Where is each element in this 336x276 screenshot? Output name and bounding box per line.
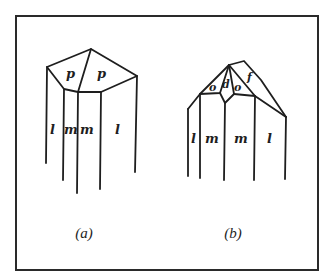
face-label-p-left: p <box>66 66 75 81</box>
crystal-a-edge-4 <box>100 92 101 189</box>
face-label-o-right: o <box>234 81 241 94</box>
face-label-l-left: l <box>50 122 55 137</box>
crystal-a-ridge <box>78 49 91 92</box>
crystal-a-edge-5 <box>135 76 137 172</box>
face-label-f: f <box>246 71 254 84</box>
figure-frame <box>16 16 318 270</box>
caption-b: (b) <box>224 225 242 242</box>
crystal-b-edge-5 <box>285 117 286 179</box>
face-label-m-left: m <box>64 122 78 137</box>
face-label-l-right-b: l <box>267 131 272 146</box>
crystal-b-edge-4 <box>254 96 255 180</box>
crystal-figure: p p l m m l (a) o d o f l m m l (b) <box>0 0 336 276</box>
face-label-p-right: p <box>97 66 106 81</box>
face-label-d: d <box>222 78 230 91</box>
crystal-a-cap-outline <box>47 49 137 92</box>
face-label-l-left-b: l <box>191 131 196 146</box>
face-label-m-right-b: m <box>234 131 248 146</box>
face-label-l-right: l <box>115 122 120 137</box>
face-label-o-left: o <box>209 81 216 94</box>
face-label-m-left-b: m <box>205 131 219 146</box>
crystal-a-edge-1 <box>46 67 47 163</box>
caption-a: (a) <box>75 225 93 242</box>
crystal-a: p p l m m l (a) <box>46 49 137 242</box>
face-label-m-right: m <box>80 122 94 137</box>
crystal-b-edge-3 <box>224 103 225 180</box>
crystal-b: o d o f l m m l (b) <box>188 61 286 242</box>
crystal-a-edge-3 <box>77 92 78 193</box>
crystal-b-face-f-edge <box>255 96 286 117</box>
